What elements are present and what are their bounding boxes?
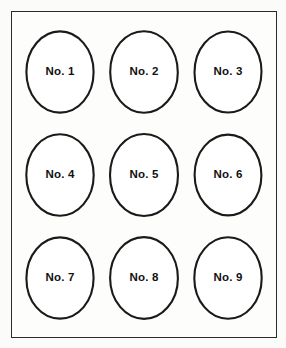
- ellipse-shape: No. 6: [192, 132, 264, 218]
- ellipse-label: No. 6: [213, 169, 242, 181]
- ellipse-label: No. 8: [129, 272, 158, 284]
- ellipse-shape: No. 9: [192, 235, 264, 321]
- ellipse-label: No. 5: [129, 169, 158, 181]
- ellipse-shape: No. 4: [24, 132, 96, 218]
- ellipse-label: No. 7: [45, 272, 74, 284]
- ellipse-label: No. 3: [213, 66, 242, 78]
- ellipse-cell[interactable]: No. 3: [186, 20, 270, 123]
- ellipse-shape: No. 5: [108, 132, 180, 218]
- ellipse-shape: No. 1: [24, 29, 96, 115]
- ellipse-shape: No. 2: [108, 29, 180, 115]
- ellipse-cell[interactable]: No. 9: [186, 226, 270, 329]
- ellipse-label: No. 4: [45, 169, 74, 181]
- ellipse-cell[interactable]: No. 6: [186, 123, 270, 226]
- ellipse-label: No. 2: [129, 66, 158, 78]
- ellipse-grid: No. 1 No. 2 No. 3: [12, 12, 276, 337]
- diagram-frame: No. 1 No. 2 No. 3: [11, 11, 277, 338]
- ellipse-shape: No. 8: [108, 235, 180, 321]
- ellipse-shape: No. 7: [24, 235, 96, 321]
- ellipse-cell[interactable]: No. 7: [18, 226, 102, 329]
- ellipse-shape: No. 3: [192, 29, 264, 115]
- figure-root: No. 1 No. 2 No. 3: [0, 0, 286, 348]
- ellipse-cell[interactable]: No. 2: [102, 20, 186, 123]
- ellipse-cell[interactable]: No. 1: [18, 20, 102, 123]
- ellipse-cell[interactable]: No. 4: [18, 123, 102, 226]
- ellipse-label: No. 1: [45, 66, 74, 78]
- ellipse-cell[interactable]: No. 5: [102, 123, 186, 226]
- ellipse-cell[interactable]: No. 8: [102, 226, 186, 329]
- ellipse-label: No. 9: [213, 272, 242, 284]
